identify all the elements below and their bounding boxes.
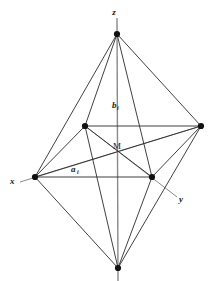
figure-background (0, 0, 213, 281)
crystal-diagram-figure: z x y M b i a i (0, 0, 213, 281)
edge-label-a-main: a (71, 164, 76, 174)
vertex-z-apex-top (114, 31, 120, 37)
vertex-back-upper (82, 123, 88, 129)
bipyramid-crystal-svg: z x y M b i a i (0, 0, 213, 281)
vertex-z-apex-bottom (115, 265, 121, 271)
vertex-right (198, 123, 204, 129)
center-label-M: M (113, 141, 121, 151)
axis-label-x: x (9, 176, 15, 186)
axis-label-z: z (111, 7, 116, 17)
vertex-y-front (149, 174, 155, 180)
vertex-x-left (32, 174, 38, 180)
